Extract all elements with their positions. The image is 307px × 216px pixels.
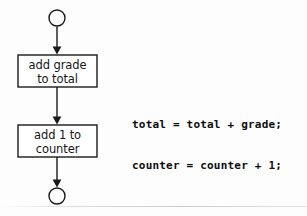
code-annotation-line-2: counter = counter + 1; (132, 159, 282, 173)
process-box-add-1-to-counter (18, 125, 97, 157)
page-edge-artifact (0, 206, 307, 207)
flowchart-canvas: add grade to total add 1 to counter tota… (0, 0, 307, 216)
start-terminator-circle (49, 10, 65, 26)
arrowhead-start-to-add-grade (53, 47, 62, 55)
code-annotation-line-1: total = total + grade; (132, 118, 282, 132)
end-terminator-circle (49, 188, 65, 204)
code-annotation: total = total + grade; counter = counter… (132, 91, 282, 199)
process-box-add-grade-to-total (18, 55, 97, 87)
arrowhead-add-grade-to-add-counter (53, 117, 62, 125)
arrowhead-add-counter-to-end (53, 180, 62, 188)
